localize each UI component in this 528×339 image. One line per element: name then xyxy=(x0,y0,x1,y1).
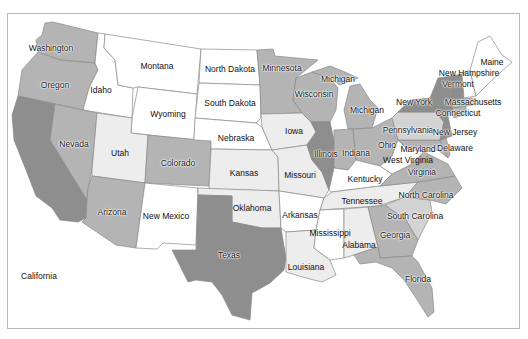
state-label: Kentucky xyxy=(347,175,384,184)
state-label: Florida xyxy=(404,275,432,284)
us-map xyxy=(0,0,528,339)
state-label: Oregon xyxy=(40,81,70,90)
state-label: Connecticut xyxy=(435,109,482,118)
state-label: Illinois xyxy=(313,150,339,159)
state-label: Virginia xyxy=(407,168,437,177)
state-label: Michigan xyxy=(349,106,385,115)
state-label: Wyoming xyxy=(149,110,186,119)
state-label: New Hampshire xyxy=(438,69,500,78)
state-label: Arkansas xyxy=(281,211,318,220)
state-label: Tennessee xyxy=(340,197,383,206)
state-label: Pennsylvania xyxy=(382,126,435,135)
state-label: Michigan xyxy=(320,75,356,84)
state-label: Texas xyxy=(217,251,241,260)
state-label: Missouri xyxy=(283,171,317,180)
state-label: Mississippi xyxy=(308,229,351,238)
state-label: Kansas xyxy=(229,169,259,178)
state-label: Ohio xyxy=(377,141,397,150)
state-label: Arizona xyxy=(97,208,128,217)
state-label: Indiana xyxy=(341,149,371,158)
state-label: Vermont xyxy=(441,80,475,89)
state-label: North Carolina xyxy=(398,191,455,200)
state-label: Montana xyxy=(139,62,174,71)
state-label: Washington xyxy=(28,44,75,53)
state-label: Colorado xyxy=(160,159,197,168)
state-label: New Jersey xyxy=(432,128,478,137)
state-label: South Carolina xyxy=(386,212,444,221)
state-label: Wisconsin xyxy=(294,90,335,99)
state-label: Georgia xyxy=(379,231,411,240)
state-label: Delaware xyxy=(436,144,474,153)
state-label: Minnesota xyxy=(261,64,302,73)
state-label: Louisiana xyxy=(287,263,325,272)
state-label: Maryland xyxy=(400,145,437,154)
state-label: North Dakota xyxy=(204,65,256,74)
state-label: Utah xyxy=(110,149,130,158)
state-label: New Mexico xyxy=(142,212,190,221)
state-label: Maine xyxy=(479,58,504,67)
state-label: Idaho xyxy=(89,86,112,95)
state-label: Nevada xyxy=(58,140,89,149)
state-label: South Dakota xyxy=(203,99,257,108)
state-label: Oklahoma xyxy=(232,204,273,213)
state-label: Nebraska xyxy=(217,134,255,143)
state-label: Massachusetts xyxy=(444,98,503,107)
state-label: California xyxy=(20,272,58,281)
state-label: New York xyxy=(395,98,433,107)
state-label: Iowa xyxy=(284,127,304,136)
state-label: Alabama xyxy=(341,241,377,250)
state-label: West Virginia xyxy=(382,156,434,165)
